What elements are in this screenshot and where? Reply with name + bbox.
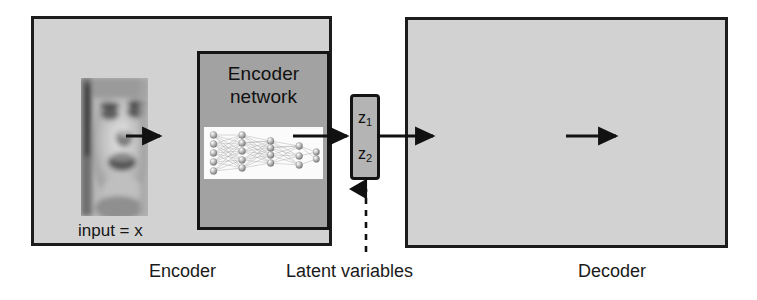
latent-variable-z1: z1 — [353, 110, 377, 130]
latent-variables-bottom-label: Latent variables — [286, 261, 413, 282]
input-face-image — [81, 78, 148, 216]
encoder-bottom-label: Encoder — [149, 261, 216, 282]
encoder-panel: input = x Encoder network — [31, 16, 332, 246]
arrow-decoder-to-output — [566, 126, 624, 146]
diagram-canvas: input = x Encoder network — [0, 0, 757, 300]
arrow-input-to-encoder — [126, 126, 168, 146]
arrow-latent-label-dashed — [356, 180, 376, 252]
decoder-bottom-label: Decoder — [578, 261, 646, 282]
latent-variable-z2: z2 — [353, 146, 377, 166]
encoder-network-title: Encoder network — [200, 62, 327, 108]
input-caption: input = x — [78, 221, 143, 241]
arrow-encoder-to-latent — [293, 126, 355, 146]
arrow-latent-to-decoder — [377, 126, 441, 146]
